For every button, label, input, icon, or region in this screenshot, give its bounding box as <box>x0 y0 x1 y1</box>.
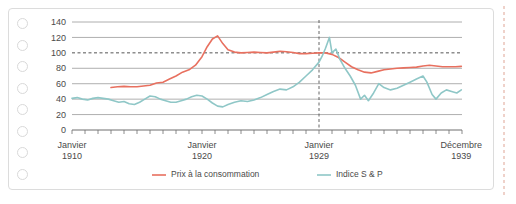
x-axis-label: Décembre <box>441 140 483 150</box>
series-line-legend-sp-index <box>72 37 461 106</box>
chart-plot-area: 020406080100120140Janvier1910Janvier1920… <box>0 0 516 204</box>
y-tick-label: 20 <box>56 110 66 120</box>
y-tick-label: 100 <box>51 48 66 58</box>
legend-label-legend-sp-index: Indice S & P <box>336 169 383 179</box>
y-tick-label: 120 <box>51 33 66 43</box>
legend-label-legend-consumer-prices: Prix à la consommation <box>171 169 260 179</box>
x-axis-label: Janvier <box>57 140 86 150</box>
line-chart: 020406080100120140Janvier1910Janvier1920… <box>0 0 516 204</box>
screenshot-root: 020406080100120140Janvier1910Janvier1920… <box>0 0 516 204</box>
x-axis-label-year: 1929 <box>309 151 329 161</box>
x-axis-label-year: 1920 <box>192 151 212 161</box>
x-axis-label: Janvier <box>187 140 216 150</box>
y-tick-label: 140 <box>51 17 66 27</box>
y-tick-label: 60 <box>56 79 66 89</box>
x-axis-label-year: 1939 <box>451 151 471 161</box>
x-axis-label: Janvier <box>304 140 333 150</box>
y-tick-label: 0 <box>61 125 66 135</box>
y-tick-label: 80 <box>56 63 66 73</box>
x-axis-label-year: 1910 <box>62 151 82 161</box>
y-tick-label: 40 <box>56 94 66 104</box>
series-line-legend-consumer-prices <box>111 36 461 88</box>
